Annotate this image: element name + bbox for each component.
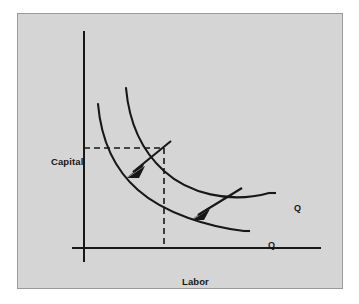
isoquant-label-upper: Q: [294, 203, 301, 213]
isoquant-curve-upper: [126, 88, 269, 197]
isoquant-label-lower: Q: [268, 240, 275, 250]
isoquant-curve-lower: [98, 104, 244, 231]
x-axis-label: Labor: [182, 276, 209, 287]
isoquant-plot: [18, 14, 344, 290]
figure-root: Capital Labor Q Q: [0, 0, 359, 304]
figure-panel: Capital Labor Q Q: [17, 13, 343, 289]
y-axis-label: Capital: [51, 156, 83, 167]
shift-arrow-lower: [191, 188, 242, 220]
